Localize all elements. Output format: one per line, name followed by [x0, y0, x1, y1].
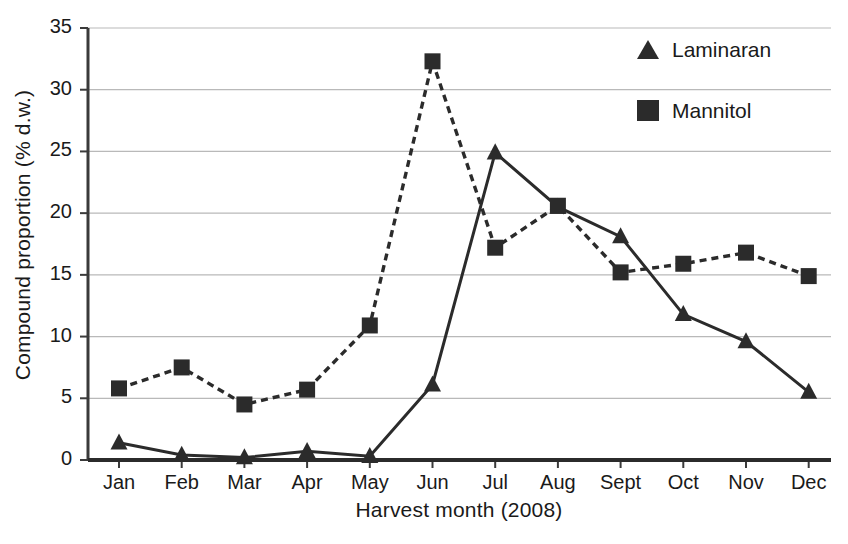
data-point-mannitol-sept	[613, 264, 629, 280]
chart-figure: Compound proportion (% d.w.) Harvest mon…	[0, 0, 848, 544]
x-axis-title: Harvest month (2008)	[88, 498, 830, 522]
y-tick-label: 30	[30, 77, 72, 100]
data-point-laminaran-jun	[424, 375, 441, 391]
data-point-mannitol-jan	[111, 380, 127, 396]
series-line-laminaran	[119, 153, 809, 458]
gridline-group	[88, 28, 831, 398]
data-point-laminaran-jan	[111, 433, 128, 449]
y-tick-label: 15	[30, 262, 72, 285]
y-tick-label: 35	[30, 15, 72, 38]
x-tick-label: Dec	[769, 471, 848, 494]
data-point-mannitol-apr	[299, 382, 315, 398]
y-tick-label: 5	[30, 385, 72, 408]
y-tick-label: 20	[30, 200, 72, 223]
data-point-mannitol-feb	[174, 359, 190, 375]
y-tick-label: 10	[30, 324, 72, 347]
data-point-laminaran-apr	[299, 442, 316, 458]
legend-marker-group	[637, 40, 659, 121]
data-point-mannitol-jun	[425, 53, 441, 69]
y-tick-label: 25	[30, 138, 72, 161]
axis-frame	[88, 28, 831, 460]
line-chart-plot	[0, 0, 848, 544]
data-point-mannitol-nov	[738, 245, 754, 261]
data-point-mannitol-jul	[487, 240, 503, 256]
data-point-mannitol-oct	[675, 256, 691, 272]
legend-triangle-icon	[637, 40, 659, 59]
data-point-mannitol-mar	[236, 396, 252, 412]
data-point-mannitol-dec	[801, 268, 817, 284]
data-point-mannitol-aug	[550, 198, 566, 214]
y-tick-label: 0	[30, 447, 72, 470]
legend-square-icon	[637, 100, 659, 121]
legend-label-laminaran: Laminaran	[672, 38, 771, 62]
data-point-laminaran-dec	[800, 383, 817, 399]
legend-label-mannitol: Mannitol	[672, 99, 751, 123]
data-point-mannitol-may	[362, 317, 378, 333]
